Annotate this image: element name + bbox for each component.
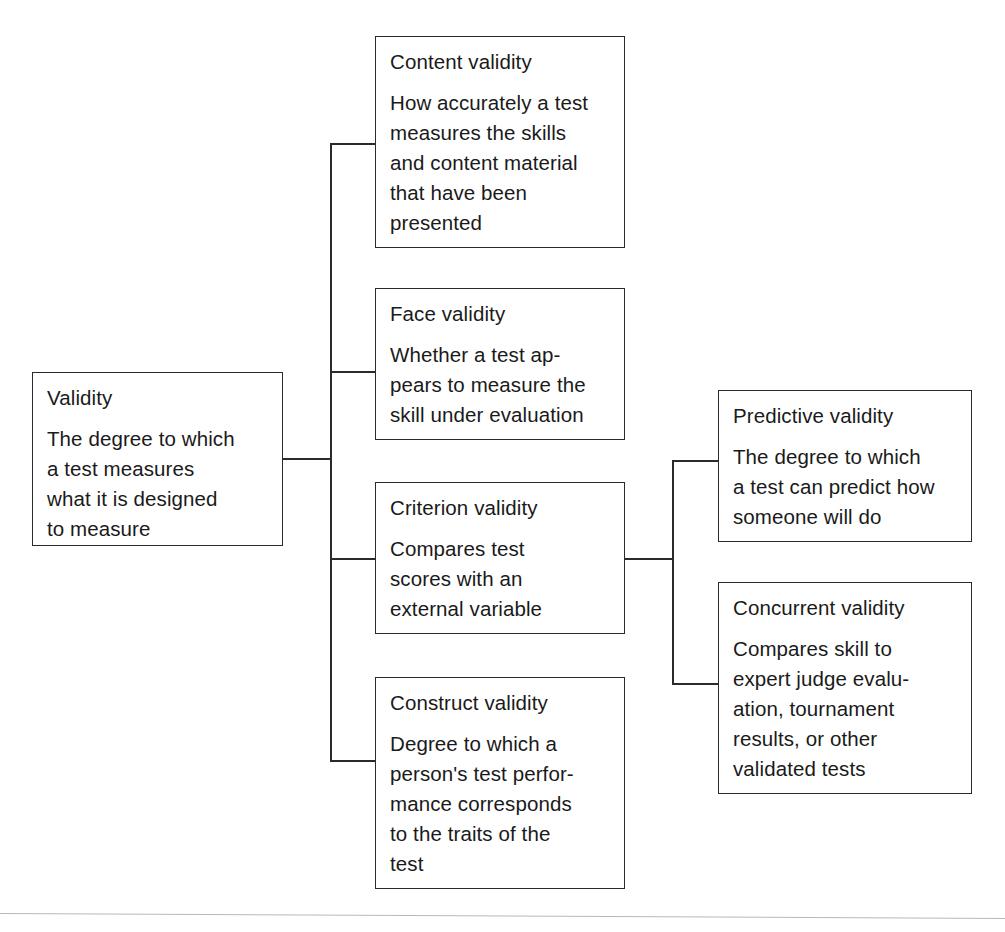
node-predictive-validity-title: Predictive validity [733,403,957,429]
node-validity-title: Validity [47,385,268,411]
desc-line: pears to measure the [390,370,610,400]
desc-line: ation, tournament [733,694,957,724]
desc-line: Compares test [390,534,610,564]
desc-line: test [390,849,610,879]
desc-line: to the traits of the [390,819,610,849]
desc-line: Degree to which a [390,729,610,759]
desc-line: what it is designed [47,484,268,514]
connector-to-concurrent-validity [672,683,719,685]
node-concurrent-validity-title: Concurrent validity [733,595,957,621]
node-concurrent-validity-description: Compares skill to expert judge evalu- at… [733,634,957,784]
page-divider-rule [0,913,1005,919]
connector-left-trunk [330,143,332,762]
desc-line: external variable [390,594,610,624]
desc-line: mance corresponds [390,789,610,819]
validity-diagram: Validity The degree to which a test meas… [0,0,1005,932]
node-face-validity: Face validity Whether a test ap- pears t… [375,288,625,440]
node-concurrent-validity: Concurrent validity Compares skill to ex… [718,582,972,794]
node-validity-description: The degree to which a test measures what… [47,424,268,544]
node-content-validity: Content validity How accurately a test m… [375,36,625,248]
desc-line: skill under evaluation [390,400,610,430]
desc-line: Whether a test ap- [390,340,610,370]
desc-line: scores with an [390,564,610,594]
node-construct-validity-description: Degree to which a person's test perfor- … [390,729,610,879]
node-criterion-validity-title: Criterion validity [390,495,610,521]
desc-line: a test measures [47,454,268,484]
desc-line: person's test perfor- [390,759,610,789]
desc-line: to measure [47,514,268,544]
connector-to-construct-validity [330,760,376,762]
desc-line: a test can predict how [733,472,957,502]
desc-line: expert judge evalu- [733,664,957,694]
desc-line: results, or other [733,724,957,754]
desc-line: measures the skills [390,118,610,148]
desc-line: someone will do [733,502,957,532]
connector-to-content-validity [330,143,376,145]
desc-line: Compares skill to [733,634,957,664]
connector-to-criterion-validity [330,558,376,560]
node-construct-validity: Construct validity Degree to which a per… [375,677,625,889]
connector-root-stem [283,458,331,460]
node-construct-validity-title: Construct validity [390,690,610,716]
desc-line: presented [390,208,610,238]
node-content-validity-title: Content validity [390,49,610,75]
node-face-validity-title: Face validity [390,301,610,327]
node-validity: Validity The degree to which a test meas… [32,372,283,546]
desc-line: and content material [390,148,610,178]
node-predictive-validity-description: The degree to which a test can predict h… [733,442,957,532]
desc-line: that have been [390,178,610,208]
node-content-validity-description: How accurately a test measures the skill… [390,88,610,238]
node-criterion-validity: Criterion validity Compares test scores … [375,482,625,634]
node-face-validity-description: Whether a test ap- pears to measure the … [390,340,610,430]
connector-to-face-validity [330,371,376,373]
desc-line: The degree to which [47,424,268,454]
connector-to-predictive-validity [672,460,719,462]
connector-criterion-stem [625,558,673,560]
node-predictive-validity: Predictive validity The degree to which … [718,390,972,542]
desc-line: How accurately a test [390,88,610,118]
node-criterion-validity-description: Compares test scores with an external va… [390,534,610,624]
desc-line: validated tests [733,754,957,784]
desc-line: The degree to which [733,442,957,472]
connector-right-trunk [672,460,674,684]
